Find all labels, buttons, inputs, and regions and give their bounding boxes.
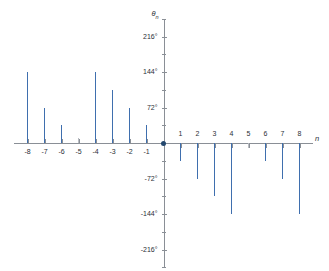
y-tick — [162, 179, 167, 180]
y-axis-title: θn — [152, 9, 159, 20]
stem-bar — [265, 143, 267, 161]
x-tick-label: -7 — [36, 148, 54, 156]
y-tick — [162, 214, 167, 215]
zero-value-marker — [248, 143, 250, 148]
x-tick-label: -2 — [121, 148, 139, 156]
x-tick-label: -8 — [19, 148, 37, 156]
zero-value-marker — [78, 138, 80, 143]
phase-spectrum-chart: θn n 216°144°72°-72°-144°-216° -8-7-6-5-… — [0, 0, 329, 271]
y-tick-label: 72° — [120, 104, 158, 112]
stem-bar — [129, 108, 131, 144]
stem-bar — [27, 72, 29, 143]
x-tick-label: 2 — [189, 130, 207, 138]
x-tick-label: -1 — [138, 148, 156, 156]
x-tick-label: 3 — [206, 130, 224, 138]
y-tick-label: 216° — [120, 33, 158, 41]
y-tick-label: -144° — [120, 210, 158, 218]
x-tick-label: -6 — [53, 148, 71, 156]
x-tick-label: 1 — [172, 130, 190, 138]
y-minor-tick — [162, 54, 166, 55]
stem-bar — [180, 143, 182, 161]
y-tick — [162, 108, 167, 109]
x-tick-label: -3 — [104, 148, 122, 156]
y-minor-tick — [162, 232, 166, 233]
stem-bar — [95, 72, 97, 143]
stem-bar — [214, 143, 216, 196]
x-tick-label: 5 — [240, 130, 258, 138]
y-minor-tick — [162, 19, 166, 20]
stem-bar — [231, 143, 233, 214]
x-axis-title: n — [315, 134, 319, 143]
y-tick — [162, 250, 167, 251]
y-minor-tick — [162, 90, 166, 91]
x-tick-label: 4 — [223, 130, 241, 138]
stem-bar — [146, 125, 148, 143]
y-tick-label: -72° — [120, 175, 158, 183]
x-tick-label: 6 — [257, 130, 275, 138]
stem-bar — [282, 143, 284, 179]
x-tick-label: -5 — [70, 148, 88, 156]
y-tick-label: 144° — [120, 68, 158, 76]
x-tick-label: 8 — [291, 130, 309, 138]
y-tick-label: -216° — [120, 246, 158, 254]
y-minor-tick — [162, 125, 166, 126]
x-tick-label: -4 — [87, 148, 105, 156]
y-minor-tick — [162, 161, 166, 162]
stem-bar — [197, 143, 199, 179]
y-minor-tick — [162, 267, 166, 268]
x-tick-label: 7 — [274, 130, 292, 138]
y-tick — [162, 37, 167, 38]
stem-bar — [299, 143, 301, 214]
stem-bar — [44, 108, 46, 144]
origin-point-marker — [161, 141, 166, 146]
stem-bar — [61, 125, 63, 143]
y-minor-tick — [162, 196, 166, 197]
y-tick — [162, 72, 167, 73]
stem-bar — [112, 90, 114, 143]
